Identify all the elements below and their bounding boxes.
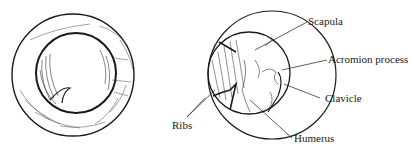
- anatomy-diagram: [0, 0, 414, 153]
- label-humerus: Humerus: [294, 133, 334, 144]
- left-view: [12, 14, 134, 136]
- label-clavicle: Clavicle: [325, 93, 362, 104]
- label-scapula: Scapula: [308, 16, 343, 27]
- label-ribs: Ribs: [172, 120, 192, 131]
- label-acromion-process: Acromion process: [328, 54, 408, 65]
- right-view: [187, 11, 336, 139]
